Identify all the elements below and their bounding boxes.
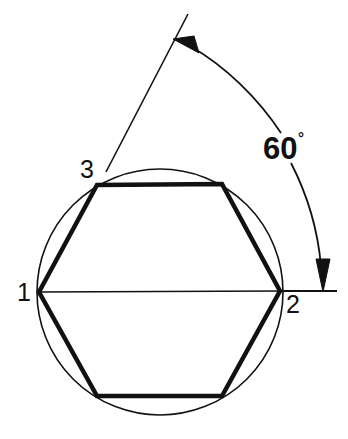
vertex-label-3: 3 [80, 155, 94, 183]
sixty-degree-arc-upper [190, 46, 281, 133]
slanted-reference-line [106, 14, 188, 172]
arrowhead-upper-icon [173, 36, 199, 53]
diagram-canvas: 1 2 3 60 ° [0, 0, 348, 439]
vertex-label-1: 1 [17, 278, 31, 306]
degree-symbol-icon: ° [298, 129, 304, 146]
vertex-label-2: 2 [286, 290, 300, 318]
hexagon-angle-figure: 1 2 3 60 ° [0, 0, 348, 439]
angle-value-label: 60 [263, 131, 297, 166]
inscribed-hexagon [39, 184, 280, 396]
horizontal-diameter [39, 291, 280, 292]
arrowhead-lower-icon [316, 259, 330, 292]
sixty-degree-arc-lower [291, 163, 321, 266]
